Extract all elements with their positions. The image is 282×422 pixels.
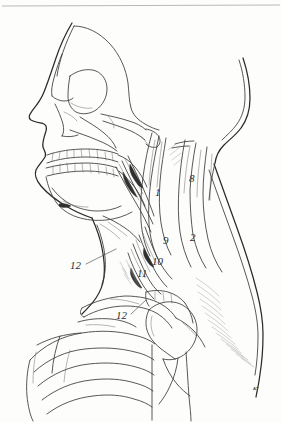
label-11: 11	[137, 267, 147, 279]
humeral-head	[146, 302, 197, 360]
label-12-lower: 12	[116, 309, 128, 321]
mandible-shading-mark	[59, 204, 71, 208]
frame-top-rule	[2, 5, 280, 6]
orbit-outline	[68, 70, 107, 114]
label-9: 9	[163, 234, 169, 246]
artist-signature: AT	[253, 386, 259, 391]
anatomy-figure: 1 8 2 9 10 11 12 12 AT	[0, 0, 282, 422]
maxilla-body	[70, 117, 117, 151]
label-1: 1	[155, 186, 161, 198]
label-12-upper: 12	[70, 259, 82, 271]
mandibular-teeth	[46, 163, 118, 177]
trapezius-fibre-hatching	[196, 278, 254, 367]
label-8: 8	[189, 172, 195, 184]
label-10: 10	[152, 255, 164, 267]
facial-profile-outline	[29, 23, 92, 218]
rib-cage	[27, 331, 155, 421]
deltoid-contour	[209, 164, 263, 397]
label-2: 2	[190, 231, 196, 243]
occipital-contour	[215, 58, 250, 163]
maxillary-teeth	[47, 149, 118, 163]
cranium-outline	[57, 26, 159, 130]
anatomy-line-drawing: 1 8 2 9 10 11 12 12 AT	[0, 0, 282, 422]
leader-12a	[86, 249, 116, 264]
first-rib-arc	[78, 319, 136, 327]
signature-text: AT	[253, 386, 259, 391]
trapezius-muscle	[168, 140, 222, 272]
posterior-neck-contour	[209, 163, 215, 200]
